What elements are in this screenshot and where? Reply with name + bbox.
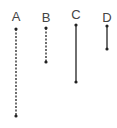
endpoint-dot (105, 24, 108, 27)
endpoint-dot (14, 27, 17, 30)
endpoint-dot (14, 114, 17, 117)
lines-layer (14, 23, 108, 117)
endpoint-dot (44, 26, 47, 29)
endpoint-dot (74, 80, 77, 83)
endpoint-dot (105, 47, 108, 50)
endpoint-dot (74, 23, 77, 26)
endpoint-dot (44, 60, 47, 63)
line-diagram (0, 0, 117, 128)
